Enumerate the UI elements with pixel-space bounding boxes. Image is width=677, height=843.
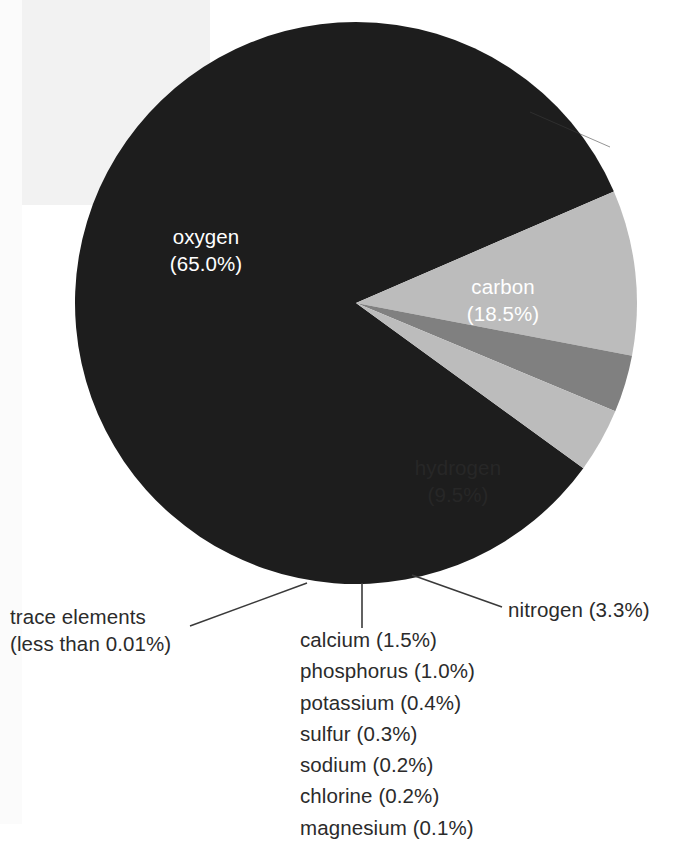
callout-nitrogen-label: nitrogen (3.3%) bbox=[508, 596, 650, 623]
minor-constituents-list: calcium (1.5%) phosphorus (1.0%) potassi… bbox=[300, 624, 475, 843]
leader-line-nitrogen bbox=[412, 575, 502, 607]
slice-label-hydrogen-name: hydrogen bbox=[383, 455, 533, 482]
list-item: potassium (0.4%) bbox=[300, 687, 475, 718]
slice-label-oxygen-name: oxygen bbox=[116, 224, 296, 251]
slice-label-oxygen-value: (65.0%) bbox=[116, 251, 296, 278]
callout-trace-elements-title: trace elements bbox=[10, 603, 171, 630]
list-item: sodium (0.2%) bbox=[300, 749, 475, 780]
slice-label-oxygen: oxygen (65.0%) bbox=[116, 224, 296, 277]
callout-trace-elements-value: (less than 0.01%) bbox=[10, 630, 171, 657]
slice-label-carbon-value: (18.5%) bbox=[413, 301, 593, 328]
list-item: sulfur (0.3%) bbox=[300, 718, 475, 749]
list-item: calcium (1.5%) bbox=[300, 624, 475, 655]
list-item: chlorine (0.2%) bbox=[300, 780, 475, 811]
leader-line-trace-elements bbox=[190, 583, 307, 626]
callout-nitrogen: nitrogen (3.3%) bbox=[508, 596, 650, 623]
slice-label-carbon-name: carbon bbox=[413, 274, 593, 301]
list-item: phosphorus (1.0%) bbox=[300, 655, 475, 686]
list-item: magnesium (0.1%) bbox=[300, 812, 475, 843]
callout-trace-elements: trace elements (less than 0.01%) bbox=[10, 603, 171, 657]
slice-label-hydrogen: hydrogen (9.5%) bbox=[383, 455, 533, 508]
slice-label-carbon: carbon (18.5%) bbox=[413, 274, 593, 327]
slice-label-hydrogen-value: (9.5%) bbox=[383, 482, 533, 509]
